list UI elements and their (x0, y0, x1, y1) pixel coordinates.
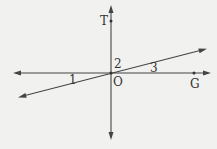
angle-label-3: 3 (150, 61, 158, 75)
arrowhead-lower-left-icon (18, 93, 27, 98)
geometry-diagram: T O G 1 2 3 (0, 0, 217, 149)
arrowhead-up-icon (109, 5, 114, 13)
label-T: T (100, 14, 108, 28)
angle-label-2: 2 (114, 57, 122, 71)
label-O: O (113, 75, 123, 89)
arrowhead-down-icon (109, 132, 114, 140)
point-G (193, 72, 196, 75)
arrowhead-left-icon (13, 71, 21, 76)
angle-label-1: 1 (69, 73, 77, 87)
point-T (110, 20, 113, 23)
label-G: G (190, 77, 200, 91)
arrowhead-right-icon (203, 71, 211, 76)
arrowhead-upper-right-icon (198, 49, 207, 54)
